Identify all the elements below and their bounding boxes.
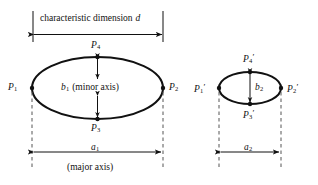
ellipse-dimension-diagram: characteristic dimensiond P1 P2 P4 P3 b1… bbox=[0, 0, 318, 185]
characteristic-dimension-label: characteristic dimensiond bbox=[40, 14, 140, 24]
diagram-canvas bbox=[0, 0, 318, 185]
characteristic-dimension-symbol: d bbox=[133, 13, 141, 23]
label-p1: P1 bbox=[8, 83, 17, 93]
major-axis-1-symbol: a1 bbox=[91, 143, 99, 153]
point-p2p-dot bbox=[279, 86, 283, 90]
major-axis-1-caption: (major axis) bbox=[67, 163, 113, 173]
characteristic-dimension-text: characteristic dimension bbox=[40, 13, 133, 23]
label-p2: P2 bbox=[169, 83, 178, 93]
minor-axis-1-label: b1(minor axis) bbox=[61, 83, 119, 93]
point-p1-dot bbox=[30, 86, 34, 90]
label-p3: P3 bbox=[91, 124, 100, 134]
label-p1-prime: P1′ bbox=[194, 83, 206, 95]
label-p4: P4 bbox=[91, 41, 100, 51]
label-p2-prime: P2′ bbox=[287, 83, 299, 95]
major-axis-2-symbol: a2 bbox=[244, 143, 252, 153]
label-p4-prime: P4′ bbox=[243, 53, 255, 65]
minor-axis-2-label: b2 bbox=[255, 83, 263, 93]
point-p1p-dot bbox=[217, 86, 221, 90]
point-p2-dot bbox=[161, 86, 165, 90]
label-p3-prime: P3′ bbox=[243, 109, 255, 121]
